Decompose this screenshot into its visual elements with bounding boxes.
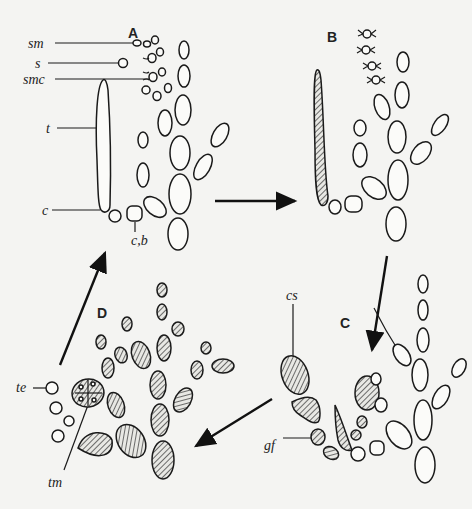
stage-b: B [314, 29, 452, 241]
label-cb: c,b [131, 233, 148, 248]
label-s: s [35, 56, 41, 71]
label-gf: gf [264, 438, 277, 453]
label-te: te [16, 380, 26, 395]
stage-d-label: D [97, 305, 107, 321]
stage-b-label: B [327, 29, 337, 45]
stage-c-label: C [340, 315, 350, 331]
label-sm: sm [28, 36, 44, 51]
label-c: c [42, 203, 49, 218]
arrow-b-to-c [372, 256, 387, 350]
stage-a-label: A [128, 25, 138, 41]
label-smc: smc [23, 72, 46, 87]
life-cycle-diagram: A sm s smc t c c,b [0, 0, 472, 509]
label-cs: cs [286, 288, 298, 303]
label-tm: tm [48, 475, 62, 490]
label-t: t [46, 121, 51, 136]
arrow-c-to-d [196, 399, 272, 446]
stage-a: A sm s smc t c c,b [23, 25, 233, 250]
stage-c: C cs gf [264, 275, 469, 483]
stage-d: D te tm [16, 283, 234, 490]
